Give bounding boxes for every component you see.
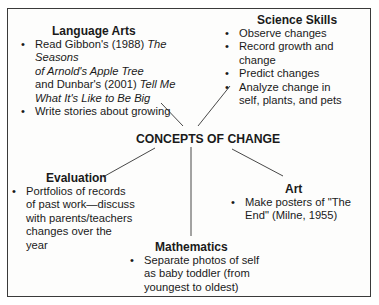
- language-arts-node: Language Arts Read Gibbon's (1988) The S…: [18, 24, 198, 118]
- center-concept: CONCEPTS OF CHANGE: [136, 132, 280, 146]
- list-item: Separate photos of self as baby toddler …: [127, 254, 266, 294]
- list-item: Observe changes: [222, 27, 372, 40]
- connector-art: [232, 149, 283, 176]
- list-item: Make posters of "The End" (Milne, 1955): [228, 196, 357, 223]
- art-title: Art: [228, 182, 368, 196]
- list-item: Read Gibbon's (1988) The Seasons of Arno…: [18, 38, 198, 105]
- science-skills-title: Science Skills: [222, 13, 372, 27]
- evaluation-node: Evaluation Portfolios of records of past…: [9, 171, 139, 252]
- mathematics-title: Mathematics: [127, 240, 287, 254]
- art-node: Art Make posters of "The End" (Milne, 19…: [228, 182, 368, 223]
- list-item: Analyze change in self, plants, and pets: [222, 81, 349, 108]
- list-item: Record growth and change: [222, 40, 372, 67]
- mathematics-node: Mathematics Separate photos of self as b…: [127, 240, 287, 294]
- list-item: Portfolios of records of past work—discu…: [9, 185, 136, 252]
- list-item: Predict changes: [222, 67, 372, 80]
- evaluation-title: Evaluation: [9, 171, 139, 185]
- science-skills-node: Science Skills Observe changes Record gr…: [222, 13, 372, 107]
- list-item: Write stories about growing: [18, 105, 198, 118]
- language-arts-title: Language Arts: [18, 24, 198, 38]
